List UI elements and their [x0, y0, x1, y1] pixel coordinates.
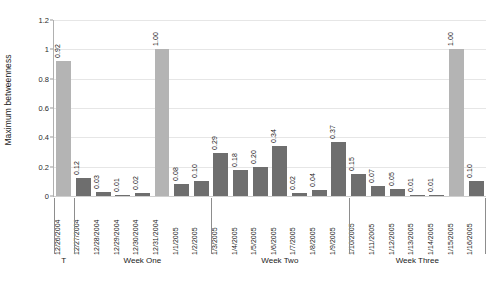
group-label: Week Three [396, 256, 439, 265]
bar-value-label: 0.15 [348, 157, 355, 171]
bar[interactable] [410, 195, 425, 196]
gridline [54, 196, 486, 197]
group-separator [485, 198, 486, 254]
y-axis-tick-labels: 00.20.40.60.811.2 [20, 14, 53, 200]
bar[interactable] [233, 170, 248, 196]
bar[interactable] [469, 181, 484, 196]
y-axis-tick-label: 0 [45, 192, 49, 201]
bar-slot: 0.92 [54, 20, 74, 196]
bar[interactable] [56, 61, 71, 196]
bar-value-label: 0.08 [171, 167, 178, 181]
bar-slot: 1.00 [447, 20, 467, 196]
group-label: T [61, 256, 66, 265]
bar-slot: 0.01 [113, 20, 133, 196]
y-axis-tick-label: 0.6 [39, 104, 49, 113]
bar-slot: 0.08 [172, 20, 192, 196]
y-axis-tick-label: 0.8 [39, 74, 49, 83]
bar-value-label: 0.10 [466, 164, 473, 178]
bar-slot: 1.00 [152, 20, 172, 196]
bar[interactable] [213, 153, 228, 196]
bar[interactable] [390, 189, 405, 196]
bar-value-label: 0.92 [53, 44, 60, 58]
group-separator [349, 198, 350, 254]
bar-value-label: 0.05 [387, 172, 394, 186]
y-axis-title-text: Maximum betweenness [3, 54, 13, 145]
group-separator [74, 198, 75, 254]
bar[interactable] [351, 174, 366, 196]
group-label: Week Two [261, 256, 298, 265]
bar-value-label: 0.01 [426, 178, 433, 192]
bar[interactable] [429, 195, 444, 196]
bar-value-label: 0.07 [367, 169, 374, 183]
bar-slot: 0.10 [191, 20, 211, 196]
bar-slot: 0.02 [290, 20, 310, 196]
bar[interactable] [312, 190, 327, 196]
bar-slot: 0.04 [309, 20, 329, 196]
bar[interactable] [272, 146, 287, 196]
y-axis-tick-label: 0.2 [39, 162, 49, 171]
bar-value-label: 0.04 [309, 173, 316, 187]
bar-slot: 0.03 [93, 20, 113, 196]
x-axis-group-labels: TWeek OneWeek TwoWeek Three [54, 198, 486, 278]
bar[interactable] [371, 186, 386, 196]
bar-value-label: 0.20 [250, 150, 257, 164]
bar-slot: 0.02 [133, 20, 153, 196]
bar[interactable] [135, 193, 150, 196]
bar-slot: 0.10 [466, 20, 486, 196]
bar-slot: 0.07 [368, 20, 388, 196]
bar-value-label: 1.00 [446, 32, 453, 46]
bar-value-label: 0.34 [269, 129, 276, 143]
bar[interactable] [115, 195, 130, 196]
y-axis-title: Maximum betweenness [0, 0, 16, 200]
bar-slot: 0.12 [74, 20, 94, 196]
bar-slot: 0.20 [250, 20, 270, 196]
bar[interactable] [155, 49, 170, 196]
group-label: Week One [124, 256, 162, 265]
y-axis-tick-label: 0.4 [39, 133, 49, 142]
bar-slot: 0.05 [388, 20, 408, 196]
y-axis-tick-label: 1.2 [39, 16, 49, 25]
y-axis-tick-label: 1 [45, 45, 49, 54]
bar[interactable] [76, 178, 91, 196]
bar-value-label: 0.02 [289, 176, 296, 190]
bar-slot: 0.15 [349, 20, 369, 196]
bar[interactable] [253, 167, 268, 196]
bar-value-label: 0.01 [407, 178, 414, 192]
bar-value-label: 0.01 [112, 178, 119, 192]
group-separator [54, 198, 55, 254]
bar[interactable] [194, 181, 209, 196]
bar-slot: 0.01 [407, 20, 427, 196]
bar[interactable] [96, 192, 111, 196]
bar-slot: 0.01 [427, 20, 447, 196]
bar-chart: Maximum betweenness 00.20.40.60.811.2 0.… [0, 0, 491, 285]
bar-slot: 0.29 [211, 20, 231, 196]
bar-value-label: 0.03 [93, 175, 100, 189]
bar[interactable] [449, 49, 464, 196]
bar-slot: 0.34 [270, 20, 290, 196]
bar-value-label: 0.12 [73, 161, 80, 175]
bar-value-label: 0.37 [328, 125, 335, 139]
bar-value-label: 0.29 [210, 136, 217, 150]
bar-value-label: 0.10 [191, 164, 198, 178]
bar-value-label: 0.02 [132, 176, 139, 190]
bar[interactable] [174, 184, 189, 196]
bars-layer: 0.920.120.030.010.021.000.080.100.290.18… [54, 20, 486, 196]
bar[interactable] [292, 193, 307, 196]
bar-slot: 0.18 [231, 20, 251, 196]
bar-value-label: 0.18 [230, 153, 237, 167]
plot-area: 0.920.120.030.010.021.000.080.100.290.18… [54, 20, 486, 196]
bar[interactable] [331, 142, 346, 196]
group-separator [211, 198, 212, 254]
bar-value-label: 1.00 [151, 32, 158, 46]
bar-slot: 0.37 [329, 20, 349, 196]
